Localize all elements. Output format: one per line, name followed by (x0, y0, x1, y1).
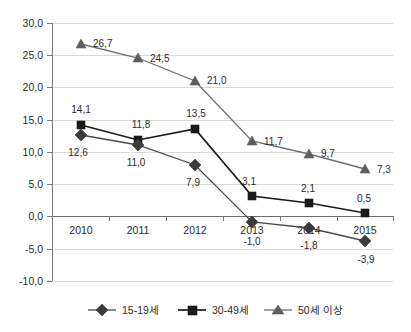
x-axis-labels-group: 2010 2011 2012 2013 2014 2015 (69, 224, 377, 236)
series-15-19-marker-2010 (75, 129, 87, 141)
series-15-19-marker-2015 (359, 235, 371, 247)
data-label-3049-2013: 3,1 (242, 176, 256, 187)
y-tick-marks-group (47, 23, 52, 281)
y-tick-label-minus10: -10,0 (19, 275, 43, 287)
data-label-50plus-2013: 11,7 (264, 136, 283, 147)
y-tick-label-minus5: -5,0 (25, 243, 43, 255)
legend-diamond-icon (96, 304, 108, 316)
data-label-1519-2012: 7,9 (186, 177, 200, 188)
series-30-49-marker-2014 (305, 199, 313, 207)
data-label-50plus-2014: 9,7 (321, 148, 335, 159)
series-30-49 (77, 121, 369, 217)
y-tick-label-10: 10,0 (23, 146, 44, 158)
y-tick-label-25: 25,0 (23, 49, 44, 61)
data-label-3049-2012: 13,5 (186, 108, 206, 119)
x-tick-label-2012: 2012 (183, 224, 207, 236)
legend: 15-19세 30-49세 50세 이상 (88, 304, 343, 316)
data-label-50plus-2015: 7,3 (377, 164, 391, 175)
y-tick-label-30: 30,0 (23, 17, 44, 29)
data-label-50plus-2010: 26,7 (93, 38, 113, 49)
y-tick-label-5: 5,0 (28, 178, 43, 190)
data-label-3049-2014: 2,1 (301, 183, 315, 194)
series-50-plus-marker-2012 (190, 76, 200, 85)
series-30-49-marker-2012 (191, 125, 199, 133)
x-tick-label-2015: 2015 (353, 224, 377, 236)
chart-canvas: 30,0 25,0 20,0 15,0 10,0 5,0 0,0 -5,0 -1… (0, 0, 411, 332)
line-chart-panel: 30,0 25,0 20,0 15,0 10,0 5,0 0,0 -5,0 -1… (0, 0, 411, 332)
data-label-1519-2013: -1,0 (243, 236, 261, 247)
series-30-49-line (81, 125, 365, 213)
y-tick-label-20: 20,0 (23, 81, 44, 93)
series-50-plus-marker-2010 (76, 39, 86, 48)
legend-label-30-49[interactable]: 30-49세 (212, 304, 249, 316)
data-label-3049-2010: 14,1 (71, 104, 91, 115)
legend-label-15-19[interactable]: 15-19세 (122, 304, 159, 316)
series-15-19 (75, 129, 371, 247)
data-label-50plus-2011: 24,5 (150, 53, 170, 64)
data-label-1519-2015: -3,9 (357, 254, 375, 265)
series-30-49-marker-2010 (77, 121, 85, 129)
y-tick-label-15: 15,0 (23, 114, 44, 126)
data-label-3049-2011: 11,8 (132, 119, 151, 130)
series-30-49-marker-2013 (248, 192, 256, 200)
data-label-3049-2015: 0,5 (357, 193, 371, 204)
y-axis-labels-group: 30,0 25,0 20,0 15,0 10,0 5,0 0,0 -5,0 -1… (19, 17, 43, 287)
legend-square-icon (188, 306, 197, 315)
gridlines-group (52, 23, 393, 281)
data-label-1519-2014: -1,8 (300, 240, 318, 251)
y-tick-label-0: 0,0 (28, 210, 43, 222)
x-tick-label-2010: 2010 (69, 224, 93, 236)
data-label-1519-2011: 11,0 (127, 157, 146, 168)
data-label-1519-2010: 12,6 (68, 147, 88, 158)
x-tick-label-2011: 2011 (127, 224, 150, 236)
data-label-50plus-2012: 21,0 (207, 75, 227, 86)
x-tick-marks-group (52, 216, 393, 221)
series-30-49-marker-2015 (361, 209, 369, 217)
legend-label-50-plus[interactable]: 50세 이상 (298, 304, 343, 316)
